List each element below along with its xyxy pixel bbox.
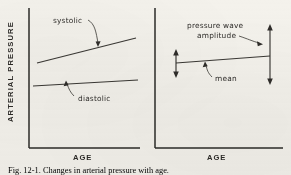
diastolic-leader-arrowhead xyxy=(64,81,69,87)
mean-label: mean xyxy=(215,74,237,83)
amplitude-leader xyxy=(239,36,259,43)
figure-caption-band: Fig. 12-1. Changes in arterial pressure … xyxy=(0,167,291,175)
panel-left: ARTERIAL PRESSURE systolic diastolic AGE xyxy=(6,8,140,162)
systolic-leader xyxy=(88,20,98,43)
mean-leader-arrowhead xyxy=(203,62,208,68)
figure-svg: ARTERIAL PRESSURE systolic diastolic AGE xyxy=(0,0,291,175)
diastolic-leader xyxy=(67,84,74,96)
panel-right: pressure wave amplitude mean AGE xyxy=(155,8,283,162)
systolic-line xyxy=(37,38,136,63)
amplitude-arrow-old xyxy=(267,24,273,85)
y-axis-label: ARTERIAL PRESSURE xyxy=(6,21,15,122)
mean-line xyxy=(176,56,270,63)
amplitude-arrow-young xyxy=(173,49,179,78)
amplitude-leader-arrowhead xyxy=(257,41,263,46)
left-x-axis-label: AGE xyxy=(73,153,92,162)
systolic-leader-arrowhead xyxy=(96,41,101,47)
diastolic-label: diastolic xyxy=(78,94,111,103)
pressure-wave-amplitude-label-line1: pressure wave xyxy=(187,21,244,30)
systolic-label: systolic xyxy=(53,16,82,25)
mean-leader xyxy=(206,65,212,77)
figure-container: ARTERIAL PRESSURE systolic diastolic AGE xyxy=(0,0,291,175)
right-x-axis-label: AGE xyxy=(207,153,226,162)
pressure-wave-amplitude-label-line2: amplitude xyxy=(197,31,236,40)
diastolic-line xyxy=(33,80,138,86)
figure-caption: Fig. 12-1. Changes in arterial pressure … xyxy=(8,167,169,175)
